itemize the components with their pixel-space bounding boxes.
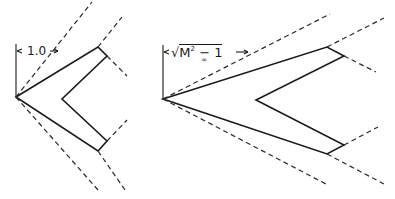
left-trailing-wave-lower <box>107 120 127 141</box>
right-figure <box>163 14 384 184</box>
right-mach-line-lower-outer <box>327 154 384 184</box>
right-arrow-head-left <box>164 50 169 52</box>
mach-symbol: M <box>179 45 190 60</box>
left-wing-planform <box>16 47 107 151</box>
infinity-subscript: ∞ <box>201 54 207 67</box>
right-trailing-wave-lower <box>344 127 378 145</box>
right-mach-line-upper-outer <box>327 18 384 47</box>
left-arrow-head-left <box>17 49 22 51</box>
right-trailing-wave-upper <box>344 56 376 72</box>
diagram-canvas <box>0 0 395 199</box>
left-trailing-wave-upper <box>107 56 127 76</box>
left-mach-line-lower-outer <box>98 151 125 190</box>
right-mach-line-lower-inner <box>163 99 326 184</box>
left-mach-line-upper-outer <box>98 17 122 47</box>
left-dimension-label: 1.0 <box>26 45 47 57</box>
left-figure <box>16 2 127 190</box>
right-wing-planform <box>163 47 344 154</box>
right-dimension-label: √M2∞ − 1 <box>170 44 223 59</box>
exponent: 2 <box>191 45 195 53</box>
